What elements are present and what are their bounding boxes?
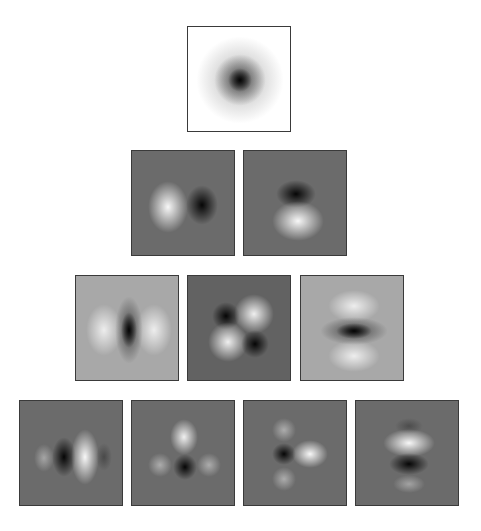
panel-gxy: second derivative xy: [187, 275, 291, 381]
response-lobe: [228, 68, 252, 92]
response-lobe: [170, 419, 198, 455]
response-lobe: [148, 453, 172, 477]
panel-gxyy: third derivative xyy: [243, 400, 347, 506]
response-lobe: [173, 454, 197, 480]
response-lobe: [292, 440, 328, 468]
response-lobe: [148, 181, 188, 233]
response-lobe: [272, 467, 296, 491]
panel-gyyy: third derivative yyy: [355, 400, 459, 506]
response-lobe: [121, 312, 137, 348]
panel-gyy: second derivative yy: [300, 275, 404, 381]
response-lobe: [389, 453, 429, 475]
response-lobe: [186, 185, 218, 225]
panel-g: Gaussian: [187, 26, 291, 132]
panel-gy: first derivative y: [243, 150, 347, 256]
response-lobe: [272, 201, 324, 241]
response-lobe: [71, 429, 99, 485]
response-lobe: [197, 453, 221, 477]
panel-gx: first derivative x: [131, 150, 235, 256]
panel-gxx: second derivative xx: [75, 275, 179, 381]
response-lobe: [393, 475, 425, 493]
response-lobe: [96, 443, 112, 471]
response-lobe: [272, 418, 296, 442]
response-lobe: [241, 330, 269, 358]
panel-gxxy: third derivative xxy: [131, 400, 235, 506]
panel-gxxx: third derivative xxx: [19, 400, 123, 506]
response-lobe: [336, 323, 372, 339]
response-lobe: [34, 444, 54, 472]
